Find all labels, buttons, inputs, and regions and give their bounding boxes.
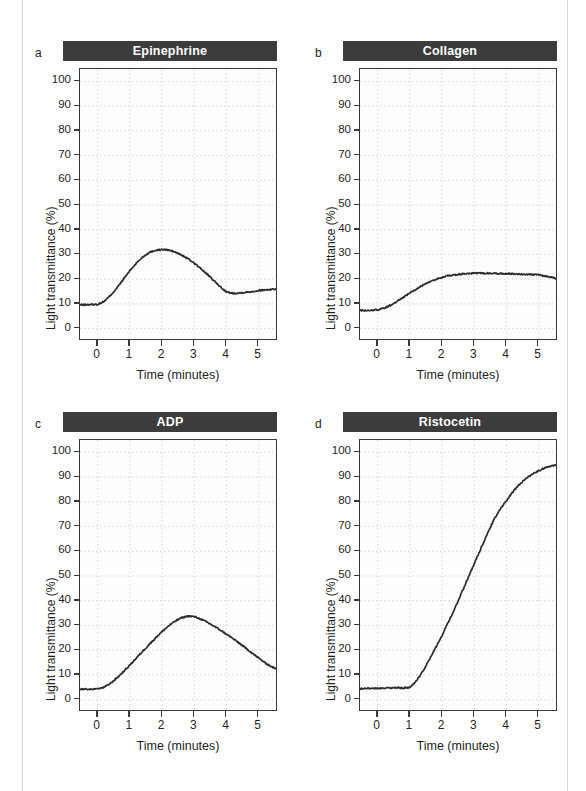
x-tick-mark xyxy=(376,711,377,717)
x-tick-mark xyxy=(408,711,409,717)
panel-title-epinephrine: Epinephrine xyxy=(63,41,277,61)
x-tick-label: 3 xyxy=(461,347,485,361)
x-tick-label: 4 xyxy=(213,718,237,732)
y-tick-mark xyxy=(354,253,359,254)
gridlines xyxy=(360,69,557,340)
y-tick-mark xyxy=(74,599,79,600)
x-tick-mark xyxy=(537,340,538,346)
plot-area-ristocetin xyxy=(359,439,557,711)
y-tick-label: 30 xyxy=(315,246,351,258)
y-tick-mark xyxy=(354,500,359,501)
x-tick-mark xyxy=(96,711,97,717)
plot-area-collagen xyxy=(359,68,557,340)
y-tick-mark xyxy=(354,302,359,303)
x-tick-label: 3 xyxy=(181,718,205,732)
y-tick-mark xyxy=(354,476,359,477)
y-tick-label: 60 xyxy=(35,172,71,184)
y-tick-label: 80 xyxy=(315,494,351,506)
y-tick-mark xyxy=(354,327,359,328)
gridlines xyxy=(80,440,277,711)
x-tick-mark xyxy=(537,711,538,717)
y-tick-label: 100 xyxy=(35,73,71,85)
y-tick-mark xyxy=(74,253,79,254)
x-tick-label: 4 xyxy=(493,347,517,361)
y-tick-mark xyxy=(74,302,79,303)
y-tick-label: 50 xyxy=(35,197,71,209)
x-tick-mark xyxy=(441,340,442,346)
panel-letter-b: b xyxy=(315,46,322,60)
y-tick-mark xyxy=(74,525,79,526)
chart-svg-ristocetin xyxy=(360,440,557,711)
y-tick-label: 100 xyxy=(315,444,351,456)
y-tick-label: 40 xyxy=(35,593,71,605)
x-tick-label: 0 xyxy=(85,718,109,732)
x-tick-mark xyxy=(376,340,377,346)
y-tick-label: 30 xyxy=(35,617,71,629)
x-tick-mark xyxy=(193,711,194,717)
x-tick-label: 2 xyxy=(429,347,453,361)
x-tick-mark xyxy=(161,340,162,346)
panel-title-adp: ADP xyxy=(63,412,277,432)
x-tick-mark xyxy=(128,340,129,346)
x-tick-mark xyxy=(505,711,506,717)
y-tick-mark xyxy=(74,500,79,501)
y-tick-mark xyxy=(74,278,79,279)
y-tick-mark xyxy=(74,204,79,205)
y-tick-mark xyxy=(354,204,359,205)
x-tick-mark xyxy=(161,711,162,717)
x-tick-mark xyxy=(225,711,226,717)
y-tick-mark xyxy=(74,129,79,130)
y-tick-label: 80 xyxy=(315,123,351,135)
y-tick-mark xyxy=(74,327,79,328)
y-tick-label: 40 xyxy=(35,222,71,234)
y-tick-label: 10 xyxy=(35,667,71,679)
x-tick-label: 5 xyxy=(246,347,270,361)
y-tick-label: 40 xyxy=(315,222,351,234)
y-tick-label: 90 xyxy=(315,469,351,481)
x-axis-label-b: Time (minutes) xyxy=(359,368,557,382)
y-tick-label: 80 xyxy=(35,494,71,506)
y-tick-label: 100 xyxy=(315,73,351,85)
y-tick-label: 30 xyxy=(315,617,351,629)
y-tick-mark xyxy=(354,525,359,526)
y-tick-mark xyxy=(74,698,79,699)
y-tick-mark xyxy=(74,673,79,674)
y-tick-mark xyxy=(74,575,79,576)
x-tick-label: 1 xyxy=(397,718,421,732)
x-tick-mark xyxy=(193,340,194,346)
y-tick-mark xyxy=(74,105,79,106)
y-tick-mark xyxy=(74,649,79,650)
y-tick-label: 20 xyxy=(35,271,71,283)
x-tick-label: 1 xyxy=(117,347,141,361)
panel-letter-d: d xyxy=(315,417,322,431)
y-tick-label: 0 xyxy=(315,692,351,704)
x-tick-mark xyxy=(96,340,97,346)
x-tick-label: 5 xyxy=(526,347,550,361)
x-tick-mark xyxy=(257,711,258,717)
x-tick-label: 4 xyxy=(213,347,237,361)
y-tick-mark xyxy=(354,228,359,229)
x-tick-label: 0 xyxy=(85,347,109,361)
y-tick-label: 90 xyxy=(35,469,71,481)
y-tick-label: 70 xyxy=(315,519,351,531)
chart-svg-epinephrine xyxy=(80,69,277,340)
y-tick-label: 40 xyxy=(315,593,351,605)
plot-area-epinephrine xyxy=(79,68,277,340)
y-tick-mark xyxy=(74,624,79,625)
y-tick-label: 50 xyxy=(35,568,71,580)
y-tick-label: 50 xyxy=(315,197,351,209)
x-tick-label: 2 xyxy=(429,718,453,732)
y-tick-label: 90 xyxy=(35,98,71,110)
x-tick-mark xyxy=(225,340,226,346)
y-tick-mark xyxy=(354,550,359,551)
chart-svg-adp xyxy=(80,440,277,711)
y-tick-label: 10 xyxy=(315,296,351,308)
y-tick-label: 80 xyxy=(35,123,71,135)
y-tick-label: 100 xyxy=(35,444,71,456)
x-tick-label: 0 xyxy=(365,347,389,361)
y-tick-mark xyxy=(354,599,359,600)
x-tick-label: 4 xyxy=(493,718,517,732)
aggregation-curve xyxy=(360,464,557,689)
aggregation-curve xyxy=(80,616,277,690)
panel-letter-c: c xyxy=(35,417,41,431)
